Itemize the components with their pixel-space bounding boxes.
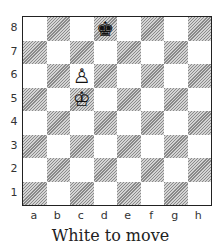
file-label: e (116, 209, 140, 222)
square-c8 (70, 17, 94, 41)
square-f1 (141, 182, 165, 206)
square-b8 (47, 17, 71, 41)
square-g8 (164, 17, 188, 41)
square-c2 (70, 158, 94, 182)
square-f4 (141, 111, 165, 135)
square-h7 (188, 41, 212, 65)
caption: White to move (0, 226, 221, 245)
square-c1 (70, 182, 94, 206)
square-c5: ♔ (70, 88, 94, 112)
square-a6 (23, 64, 47, 88)
square-b6 (47, 64, 71, 88)
square-f7 (141, 41, 165, 65)
rank-labels: 8 7 6 5 4 3 2 1 (9, 16, 19, 204)
square-g5 (164, 88, 188, 112)
square-b4 (47, 111, 71, 135)
rank-label: 3 (9, 134, 19, 158)
square-d5 (94, 88, 118, 112)
square-d8: ♚ (94, 17, 118, 41)
square-f3 (141, 135, 165, 159)
file-label: h (187, 209, 211, 222)
rank-label: 1 (9, 181, 19, 205)
rank-label: 6 (9, 63, 19, 87)
chess-board: ♚♙♔ (22, 16, 212, 206)
square-d6 (94, 64, 118, 88)
square-c6: ♙ (70, 64, 94, 88)
square-d1 (94, 182, 118, 206)
square-h5 (188, 88, 212, 112)
square-a1 (23, 182, 47, 206)
square-a4 (23, 111, 47, 135)
square-a3 (23, 135, 47, 159)
square-a8 (23, 17, 47, 41)
square-h3 (188, 135, 212, 159)
square-h2 (188, 158, 212, 182)
square-a7 (23, 41, 47, 65)
square-b2 (47, 158, 71, 182)
white-king-icon: ♔ (73, 89, 91, 109)
square-c3 (70, 135, 94, 159)
square-g6 (164, 64, 188, 88)
square-c4 (70, 111, 94, 135)
black-king-icon: ♚ (96, 19, 114, 39)
square-h4 (188, 111, 212, 135)
square-b3 (47, 135, 71, 159)
square-e2 (117, 158, 141, 182)
square-g4 (164, 111, 188, 135)
square-d2 (94, 158, 118, 182)
square-h1 (188, 182, 212, 206)
square-g3 (164, 135, 188, 159)
square-b1 (47, 182, 71, 206)
file-label: c (69, 209, 93, 222)
file-labels: a b c d e f g h (22, 209, 210, 222)
square-a2 (23, 158, 47, 182)
file-label: a (22, 209, 46, 222)
square-e1 (117, 182, 141, 206)
square-f5 (141, 88, 165, 112)
rank-label: 7 (9, 40, 19, 64)
white-pawn-icon: ♙ (73, 66, 91, 86)
square-h8 (188, 17, 212, 41)
square-b5 (47, 88, 71, 112)
square-e6 (117, 64, 141, 88)
square-d4 (94, 111, 118, 135)
square-e3 (117, 135, 141, 159)
rank-label: 2 (9, 157, 19, 181)
file-label: b (46, 209, 70, 222)
square-a5 (23, 88, 47, 112)
square-b7 (47, 41, 71, 65)
square-d7 (94, 41, 118, 65)
square-e7 (117, 41, 141, 65)
square-f2 (141, 158, 165, 182)
file-label: f (140, 209, 164, 222)
square-e5 (117, 88, 141, 112)
square-g1 (164, 182, 188, 206)
square-c7 (70, 41, 94, 65)
square-f6 (141, 64, 165, 88)
square-g2 (164, 158, 188, 182)
rank-label: 4 (9, 110, 19, 134)
square-h6 (188, 64, 212, 88)
rank-label: 8 (9, 16, 19, 40)
file-label: d (93, 209, 117, 222)
square-g7 (164, 41, 188, 65)
square-f8 (141, 17, 165, 41)
square-d3 (94, 135, 118, 159)
square-e4 (117, 111, 141, 135)
file-label: g (163, 209, 187, 222)
rank-label: 5 (9, 87, 19, 111)
square-e8 (117, 17, 141, 41)
